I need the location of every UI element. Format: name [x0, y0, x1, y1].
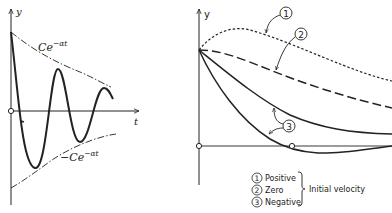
left-y-axis-label: y [15, 6, 22, 17]
svg-text:3: 3 [255, 198, 260, 207]
right-panel-overdamped: y 1 2 3 [196, 7, 392, 207]
svg-text:2: 2 [298, 30, 304, 40]
legend-item-positive: 1 Positive [252, 173, 296, 183]
curve-negative-velocity-b [199, 50, 392, 153]
curve-negative-velocity-a [199, 50, 392, 134]
svg-text:1: 1 [255, 174, 260, 183]
damped-motion-diagram: y t Ce−αt −Ce−αt y [0, 0, 392, 213]
svg-text:2: 2 [255, 186, 260, 195]
marker-3: 3 [269, 108, 295, 134]
svg-text:1: 1 [283, 9, 289, 19]
legend-item-negative: 3 Negative [252, 197, 301, 207]
upper-envelope-label: Ce−αt [38, 39, 68, 54]
svg-text:Zero: Zero [265, 186, 284, 195]
left-t-axis-label: t [134, 116, 139, 127]
damped-oscillation-curve [11, 32, 113, 168]
marker-1: 1 [266, 7, 292, 33]
zero-crossing-point [289, 143, 294, 148]
right-origin-point [196, 143, 201, 148]
curve-tick-mark [21, 121, 24, 122]
svg-text:Negative: Negative [265, 198, 301, 207]
svg-text:3: 3 [286, 122, 292, 132]
left-origin-point [8, 108, 13, 113]
left-panel-underdamped: y t Ce−αt −Ce−αt [8, 6, 139, 205]
legend: 1 Positive 2 Zero 3 Negative Initial vel… [252, 172, 365, 207]
svg-text:Positive: Positive [265, 174, 296, 183]
legend-item-zero: 2 Zero [252, 185, 284, 195]
right-y-axis-label: y [204, 9, 210, 20]
legend-group-label: Initial velocity [309, 185, 365, 194]
lower-envelope-label: −Ce−αt [60, 149, 100, 164]
